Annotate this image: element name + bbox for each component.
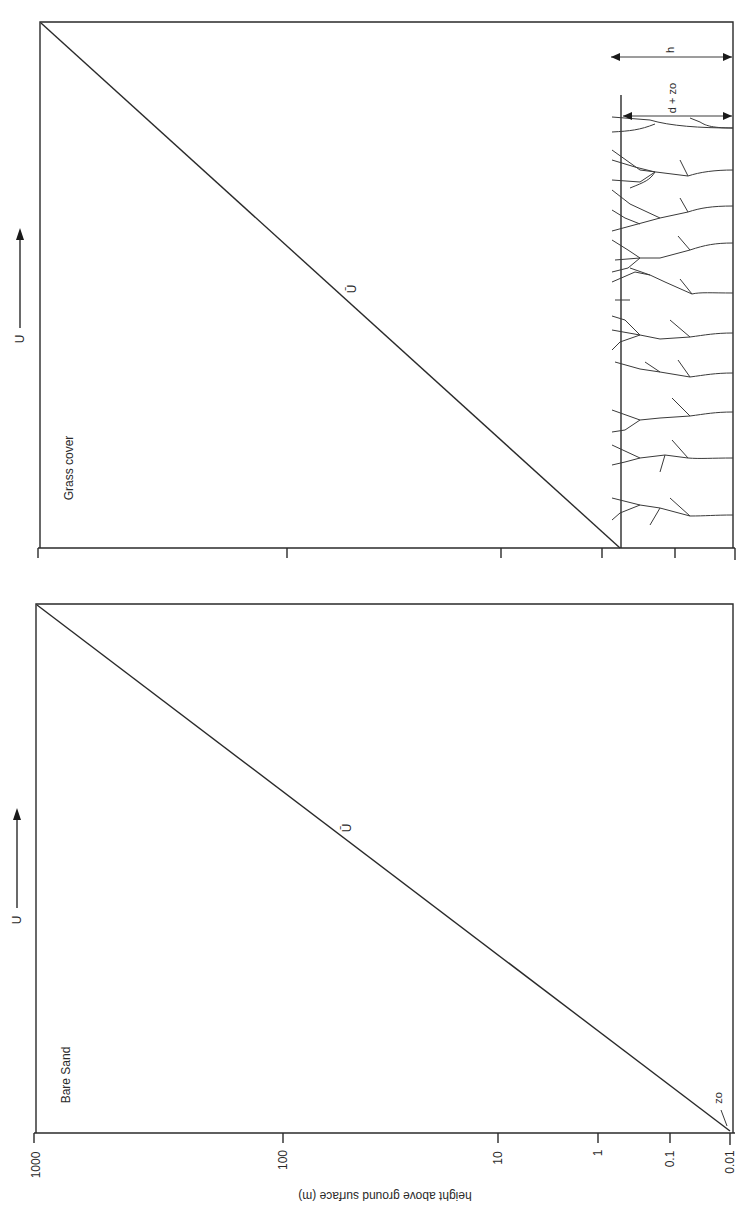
sand-profile-label: Ū bbox=[340, 824, 354, 833]
sand-wind-label: U bbox=[10, 916, 24, 925]
wind-profile-figure: d + zo h Grass cover U Ū zo bbox=[0, 0, 752, 1206]
displacement-label: d + zo bbox=[666, 83, 678, 113]
bare-sand-panel: zo Bare Sand U Ū bbox=[10, 604, 735, 1145]
grass-wind-arrowhead-icon bbox=[16, 228, 24, 240]
grass-panel-title: Grass cover bbox=[62, 436, 76, 501]
tick-label-0-01: 0.01 bbox=[723, 1150, 737, 1174]
grass-profile-label: Ū bbox=[345, 285, 359, 294]
grass-axis-ticks bbox=[38, 548, 735, 560]
grass-wind-profile-line bbox=[41, 23, 620, 548]
roughness-length-label: zo bbox=[712, 1092, 724, 1104]
height-axis-tick-labels: 1000 100 10 1 0.1 0.01 bbox=[29, 1149, 737, 1178]
height-axis-title: height above ground surface (m) bbox=[298, 1189, 471, 1203]
zo-leader-line bbox=[721, 1110, 727, 1126]
sand-panel-title: Bare Sand bbox=[59, 1047, 73, 1104]
sand-axis-ticks bbox=[34, 1133, 730, 1145]
grass-wind-label: U bbox=[13, 335, 27, 344]
tick-label-0-1: 0.1 bbox=[663, 1150, 677, 1167]
tick-label-1: 1 bbox=[591, 1149, 605, 1156]
tick-label-10: 10 bbox=[491, 1151, 505, 1165]
sand-wind-profile-line bbox=[37, 605, 730, 1131]
sand-wind-arrowhead-icon bbox=[13, 808, 21, 820]
tick-label-100: 100 bbox=[276, 1150, 290, 1170]
grass-canopy-drawing bbox=[612, 117, 733, 525]
grass-panel-frame bbox=[40, 22, 733, 548]
grass-cover-panel: d + zo h Grass cover U Ū bbox=[13, 22, 735, 560]
canopy-height-label: h bbox=[664, 47, 676, 53]
canopy-height-dimension bbox=[611, 53, 732, 61]
tick-label-1000: 1000 bbox=[29, 1151, 43, 1178]
